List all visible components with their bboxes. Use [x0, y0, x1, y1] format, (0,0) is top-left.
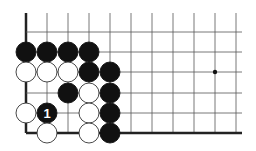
white-stone[interactable] — [37, 62, 57, 82]
star-point-icon — [213, 70, 217, 74]
star-points — [213, 70, 217, 74]
black-stone[interactable] — [58, 42, 78, 62]
white-stone[interactable] — [16, 62, 36, 82]
white-stone[interactable] — [79, 103, 99, 123]
black-stone[interactable] — [79, 62, 99, 82]
white-stone[interactable] — [16, 103, 36, 123]
black-stone[interactable] — [16, 42, 36, 62]
white-stone[interactable] — [58, 62, 78, 82]
go-board: 1 — [0, 0, 256, 151]
white-stone[interactable] — [79, 83, 99, 103]
move-number-label: 1 — [43, 106, 50, 121]
black-stone[interactable] — [100, 103, 120, 123]
black-stone[interactable] — [100, 123, 120, 143]
black-stone[interactable] — [79, 42, 99, 62]
black-stone[interactable] — [58, 83, 78, 103]
white-stone[interactable] — [37, 123, 57, 143]
black-stone[interactable] — [100, 62, 120, 82]
white-stone[interactable] — [79, 123, 99, 143]
black-stone[interactable] — [37, 42, 57, 62]
black-stone[interactable] — [100, 83, 120, 103]
